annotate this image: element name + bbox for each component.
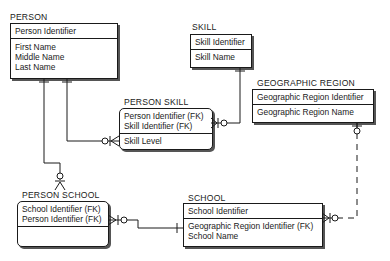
relationship-person-person-school [39,78,65,190]
attribute-skill-identifier-fk: Skill Identifier (FK) [124,121,208,131]
crowsfoot-many-icon [55,182,65,190]
entity-person-attribute-section: First Name Middle Name Last Name [11,39,117,74]
attribute-skill-identifier: Skill Identifier [195,37,247,47]
attribute-person-identifier-fk: Person Identifier (FK) [124,111,208,121]
zero-circle-icon [57,173,63,179]
entity-person-key-section: Person Identifier [11,24,117,39]
attribute-person-identifier: Person Identifier [15,26,113,36]
attribute-school-identifier-fk: School Identifier (FK) [22,204,104,214]
entity-title-person: PERSON [10,12,48,22]
entity-person-skill-attribute-section: Skill Level [120,134,212,148]
entity-school-key-section: School Identifier [184,204,322,219]
attribute-school-identifier: School Identifier [188,206,318,216]
entity-geographic-region[interactable]: Geographic Region Identifier Geographic … [252,89,374,123]
zero-circle-icon [121,217,127,223]
zero-circle-icon [354,128,360,134]
entity-geographic-region-attribute-section: Geographic Region Name [253,105,373,119]
attribute-geographic-region-identifier: Geographic Region Identifier [257,92,369,102]
entity-person-school-attribute-section [18,227,108,231]
relationship-geographic-region-school [322,122,362,223]
attribute-middle-name: Middle Name [15,52,113,62]
entity-skill[interactable]: Skill Identifier Skill Name [190,34,252,68]
attribute-skill-level: Skill Level [124,136,208,146]
entity-person-skill-key-section: Person Identifier (FK) Skill Identifier … [120,109,212,134]
relationship-skill-person-skill [211,67,245,128]
zero-circle-icon [102,138,108,144]
entity-person-skill[interactable]: Person Identifier (FK) Skill Identifier … [119,108,213,150]
entity-title-person-school: PERSON SCHOOL [22,190,100,200]
zero-circle-icon [332,215,338,221]
entity-school-attribute-section: Geographic Region Identifier (FK) School… [184,219,322,243]
entity-title-skill: SKILL [192,22,216,32]
entity-school[interactable]: School Identifier Geographic Region Iden… [183,203,323,247]
zero-circle-icon [221,120,227,126]
entity-skill-key-section: Skill Identifier [191,35,251,50]
entity-title-school: SCHOOL [188,193,226,203]
attribute-geographic-region-identifier-fk: Geographic Region Identifier (FK) [188,221,318,231]
crowsfoot-many-icon [322,213,329,223]
crowsfoot-many-icon [108,215,116,225]
attribute-school-name: School Name [188,231,318,241]
entity-geographic-region-key-section: Geographic Region Identifier [253,90,373,105]
crowsfoot-many-icon [111,136,119,146]
relationship-school-person-school [108,215,183,233]
attribute-last-name: Last Name [15,62,113,72]
entity-person[interactable]: Person Identifier First Name Middle Name… [10,23,118,79]
relationship-person-person-skill [62,78,119,146]
entity-title-person-skill: PERSON SKILL [124,97,189,107]
attribute-geographic-region-name: Geographic Region Name [257,107,369,117]
entity-person-school-key-section: School Identifier (FK) Person Identifier… [18,202,108,227]
attribute-skill-name: Skill Name [195,52,247,62]
attribute-first-name: First Name [15,42,113,52]
attribute-person-identifier-fk: Person Identifier (FK) [22,214,104,224]
entity-skill-attribute-section: Skill Name [191,50,251,64]
entity-person-school[interactable]: School Identifier (FK) Person Identifier… [17,201,109,247]
entity-title-geographic-region: GEOGRAPHIC REGION [257,78,355,88]
